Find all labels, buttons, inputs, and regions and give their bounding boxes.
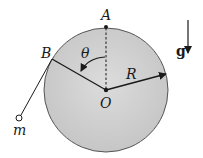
point-A-dot	[104, 25, 108, 29]
label-R: R	[125, 66, 137, 82]
label-O: O	[100, 95, 112, 111]
physics-diagram: A B O R θ m g	[0, 0, 203, 158]
label-g: g	[176, 43, 186, 59]
label-theta: θ	[81, 45, 90, 61]
point-O-dot	[104, 88, 108, 92]
mass-icon	[16, 115, 22, 121]
label-m: m	[13, 122, 26, 138]
label-B: B	[40, 45, 51, 61]
label-A: A	[99, 7, 111, 23]
